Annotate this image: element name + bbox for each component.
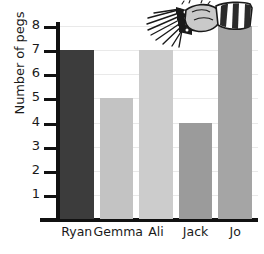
y-axis-tick bbox=[44, 50, 58, 53]
bar bbox=[60, 50, 94, 219]
y-axis-tick bbox=[44, 171, 58, 174]
bar bbox=[139, 50, 173, 219]
y-axis-tick-label: 6 bbox=[26, 65, 40, 80]
y-axis-tick bbox=[44, 98, 58, 101]
y-axis-tick bbox=[44, 123, 58, 126]
y-axis-tick-label: 7 bbox=[26, 41, 40, 56]
y-axis-tick bbox=[44, 74, 58, 77]
plot-area bbox=[60, 26, 258, 219]
y-axis-tick-label: 5 bbox=[26, 89, 40, 104]
y-axis-tick-label: 1 bbox=[26, 186, 40, 201]
x-axis-labels: RyanGemmaAliJackJo bbox=[40, 224, 262, 246]
y-axis-tick-label: 8 bbox=[26, 17, 40, 32]
hand-holding-clothes-pegs-icon bbox=[146, 0, 264, 48]
x-axis-label: Jo bbox=[212, 224, 258, 239]
bar-chart: Number of pegs 12345678 RyanGemmaAliJack… bbox=[0, 0, 264, 254]
y-axis-tick bbox=[44, 195, 58, 198]
bar bbox=[100, 98, 134, 219]
y-axis-tick-label: 4 bbox=[26, 114, 40, 129]
bar bbox=[179, 123, 213, 220]
y-axis-tick-label: 2 bbox=[26, 162, 40, 177]
y-axis-tick-label: 3 bbox=[26, 138, 40, 153]
y-axis-tick bbox=[44, 147, 58, 150]
bar bbox=[218, 26, 252, 219]
y-axis-tick bbox=[44, 26, 58, 29]
